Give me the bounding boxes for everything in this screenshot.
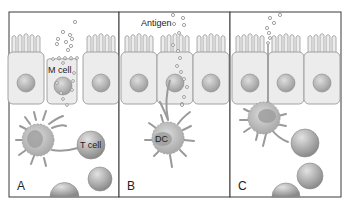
panel-a: M cell T cell A	[8, 12, 119, 197]
epithelial-cell	[232, 34, 268, 105]
epithelial-cell-right	[83, 34, 119, 105]
panel-letter-a: A	[17, 179, 25, 193]
epithelial-cell-left	[8, 34, 44, 105]
lymphocyte	[291, 129, 319, 157]
panel-letter-c: C	[238, 179, 247, 193]
epithelial-cell	[121, 34, 157, 105]
panel-letter-b: B	[127, 179, 135, 193]
lymphocyte	[297, 163, 323, 189]
epithelial-cell	[157, 34, 193, 105]
t-cell-label: T cell	[80, 140, 101, 150]
dc-label: DC	[155, 134, 168, 144]
t-cell: T cell	[77, 131, 105, 159]
panel-b: Antigen DC B	[119, 12, 230, 197]
epithelial-cell	[304, 34, 340, 105]
figure: M cell T cell A	[0, 0, 347, 204]
epithelial-cell	[268, 34, 304, 105]
epithelial-cell	[193, 34, 229, 105]
antigen-label: Antigen	[141, 18, 172, 28]
panel-c: C	[230, 12, 341, 197]
m-cell-label: M cell	[48, 65, 72, 75]
lymphocyte	[88, 167, 112, 191]
